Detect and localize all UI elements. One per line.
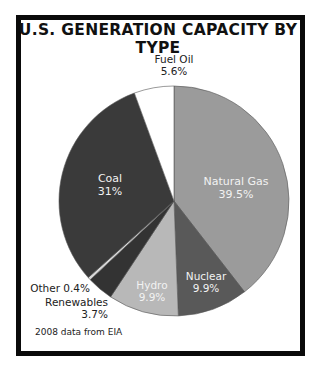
- label-hydro: Hydro 9.9%: [127, 279, 177, 303]
- label-fuel-oil-pct: 5.6%: [138, 65, 210, 77]
- label-nuclear: Nuclear 9.9%: [176, 270, 236, 294]
- label-hydro-pct: 9.9%: [127, 291, 177, 303]
- label-natural-gas-name: Natural Gas: [196, 175, 276, 188]
- label-coal-pct: 31%: [80, 185, 140, 198]
- label-other: Other 0.4%: [30, 282, 90, 294]
- label-natural-gas: Natural Gas 39.5%: [196, 175, 276, 201]
- label-coal: Coal 31%: [80, 172, 140, 198]
- label-fuel-oil: Fuel Oil 5.6%: [138, 53, 210, 77]
- label-nuclear-pct: 9.9%: [176, 282, 236, 294]
- label-nuclear-name: Nuclear: [176, 270, 236, 282]
- source-note: 2008 data from EIA: [35, 327, 122, 337]
- label-coal-name: Coal: [80, 172, 140, 185]
- label-hydro-name: Hydro: [127, 279, 177, 291]
- label-natural-gas-pct: 39.5%: [196, 188, 276, 201]
- label-fuel-oil-name: Fuel Oil: [138, 53, 210, 65]
- label-renewables: Renewables 3.7%: [20, 296, 108, 320]
